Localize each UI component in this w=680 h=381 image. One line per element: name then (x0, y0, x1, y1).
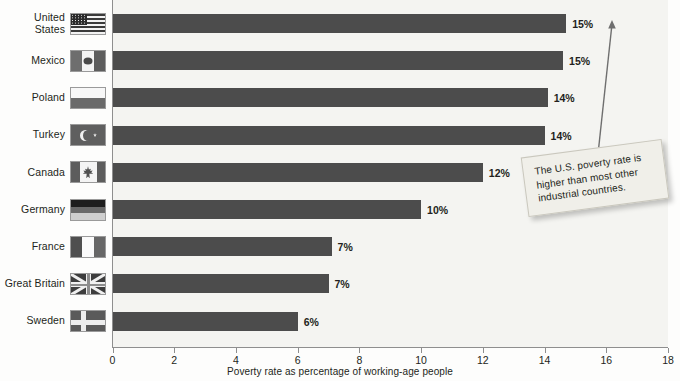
category-label: Canada (28, 167, 70, 179)
bar-value-label: 6% (304, 316, 319, 328)
category-label: France (32, 241, 70, 253)
bar-value-label: 15% (572, 18, 593, 30)
x-axis-tick (359, 348, 360, 353)
x-axis-tick (668, 348, 669, 353)
flag-sweden-icon (70, 310, 106, 332)
chart-figure: United StatesMexicoPolandTurkeyCanadaGer… (0, 0, 680, 381)
x-axis-title: Poverty rate as percentage of working-ag… (0, 366, 680, 377)
bar-value-label: 12% (489, 167, 510, 179)
x-axis-tick-label: 10 (415, 354, 427, 366)
bar-value-label: 7% (338, 241, 353, 253)
x-axis-tick (421, 348, 422, 353)
bar (113, 88, 548, 107)
flag-france-icon (70, 236, 106, 258)
flag-germany-icon (70, 199, 106, 221)
bar (113, 163, 483, 182)
bar (113, 312, 298, 331)
category-row: Poland (0, 83, 112, 113)
bar (113, 200, 422, 219)
bar (113, 237, 332, 256)
x-axis-tick (545, 348, 546, 353)
flag-poland-icon (70, 87, 106, 109)
x-axis-tick-label: 18 (662, 354, 674, 366)
category-row: Germany (0, 195, 112, 225)
category-label: United States (34, 12, 70, 35)
category-row: France (0, 232, 112, 262)
x-axis-tick (236, 348, 237, 353)
category-row: Mexico (0, 46, 112, 76)
x-axis-line (112, 347, 668, 348)
category-row: Great Britain (0, 269, 112, 299)
category-label: Poland (32, 92, 70, 104)
bar (113, 14, 567, 33)
flag-turkey-icon (70, 124, 106, 146)
bar-value-label: 7% (335, 278, 350, 290)
category-row: United States (0, 9, 112, 39)
bar (113, 126, 545, 145)
x-axis-tick-label: 14 (539, 354, 551, 366)
x-axis-tick-label: 2 (171, 354, 177, 366)
category-label: Great Britain (5, 278, 70, 290)
category-row: Sweden (0, 306, 112, 336)
category-row: Canada (0, 157, 112, 187)
x-axis-tick (113, 348, 114, 353)
bar (113, 274, 329, 293)
x-axis-tick-label: 8 (356, 354, 362, 366)
x-axis-tick-label: 0 (110, 354, 116, 366)
bar (113, 51, 564, 70)
bar-value-label: 14% (551, 130, 572, 142)
category-label: Germany (21, 204, 70, 216)
category-label: Turkey (33, 129, 70, 141)
x-axis-tick (298, 348, 299, 353)
bar-value-label: 15% (569, 55, 590, 67)
category-row: Turkey (0, 120, 112, 150)
x-axis-tick-label: 4 (233, 354, 239, 366)
x-axis-tick (606, 348, 607, 353)
x-axis-tick-label: 12 (477, 354, 489, 366)
category-label: Mexico (31, 55, 70, 67)
flag-united-states-icon (70, 13, 106, 35)
x-axis-tick (174, 348, 175, 353)
x-axis-tick-label: 6 (295, 354, 301, 366)
x-axis-tick (483, 348, 484, 353)
flag-canada-icon (70, 161, 106, 183)
flag-mexico-icon (70, 50, 106, 72)
flag-great-britain-icon (70, 273, 106, 295)
bar-value-label: 10% (427, 204, 448, 216)
category-label: Sweden (26, 315, 70, 327)
bar-value-label: 14% (554, 92, 575, 104)
x-axis-tick-label: 16 (600, 354, 612, 366)
category-axis: United StatesMexicoPolandTurkeyCanadaGer… (0, 0, 112, 348)
